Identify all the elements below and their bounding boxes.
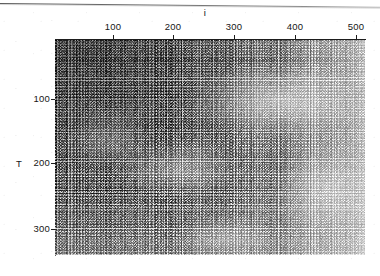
raster-defect-lines [55, 40, 365, 255]
x-tick-label-100: 100 [105, 22, 121, 32]
x-axis-title: i [204, 8, 206, 18]
raster-light-patches [55, 40, 365, 255]
raster-density-shading [55, 40, 365, 255]
x-tick-label-300: 300 [226, 22, 242, 32]
raster-diagonal-layer-b [55, 40, 365, 255]
y-tick-label-300: 300 [26, 224, 50, 234]
figure-cellular-automaton-spacetime: i 100 200 300 400 500 T 100 200 300 [0, 0, 380, 276]
spacetime-raster-plot [55, 40, 365, 255]
raster-speckle-layer [55, 40, 365, 255]
y-tick-label-100: 100 [26, 94, 50, 104]
y-axis-title: T [16, 159, 22, 169]
x-tick-label-200: 200 [165, 22, 181, 32]
x-tick-label-400: 400 [287, 22, 303, 32]
x-tick-label-500: 500 [348, 22, 364, 32]
raster-diagonal-layer-a [55, 40, 365, 255]
y-tick-label-200: 200 [26, 158, 50, 168]
raster-dash-layer [55, 40, 365, 255]
